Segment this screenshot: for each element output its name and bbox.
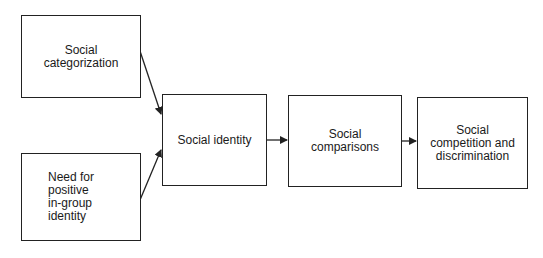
node-label: Social identity xyxy=(177,134,251,147)
node-label: Social competition and discrimination xyxy=(430,124,515,163)
node-social-categorization: Social categorization xyxy=(21,15,141,98)
arrow-need-to-identity xyxy=(140,150,161,200)
node-need-positive-identity: Need for positive in-group identity xyxy=(21,153,141,241)
node-social-identity: Social identity xyxy=(162,94,267,186)
node-social-comparisons: Social comparisons xyxy=(288,95,402,187)
node-social-competition: Social competition and discrimination xyxy=(417,97,528,189)
node-label: Social comparisons xyxy=(311,128,379,154)
node-label: Need for positive in-group identity xyxy=(22,171,94,223)
node-label: Social categorization xyxy=(44,44,119,70)
arrow-categorization-to-identity xyxy=(140,51,161,114)
